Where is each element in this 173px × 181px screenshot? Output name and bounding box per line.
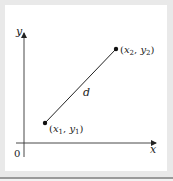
x-axis-label: x [150,143,157,156]
y-axis-label: y [15,25,23,38]
segment-label-d: d [83,86,90,99]
point-2-dot [114,47,118,51]
point-1-label: (x1, y1) [49,123,84,136]
point-2-label: (x2, y2) [120,44,155,57]
distance-segment [45,49,116,123]
coordinate-plane: y x 0 d (x1, y1) (x2, y2) [0,0,173,181]
origin-label: 0 [14,148,20,159]
point-1-dot [43,121,47,125]
